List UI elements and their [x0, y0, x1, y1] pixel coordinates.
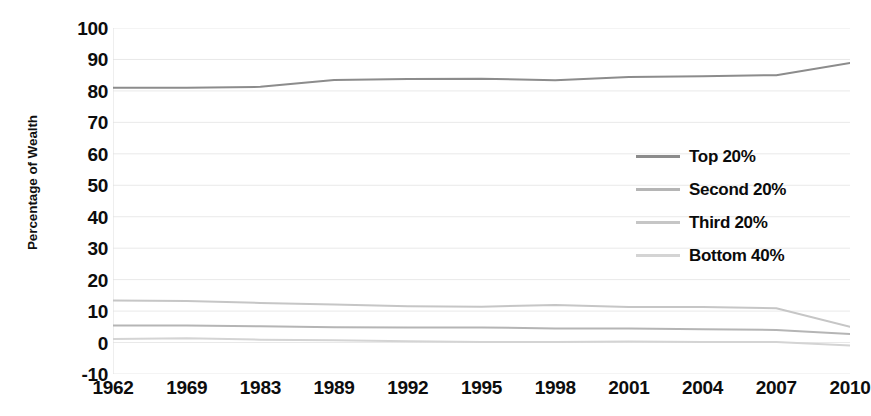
x-tick-2004: 2004 — [682, 378, 723, 397]
legend-label-bottom-40: Bottom 40% — [689, 246, 784, 266]
legend-label-third-20: Third 20% — [689, 213, 768, 233]
y-tick-20: 20 — [40, 271, 108, 290]
legend-item-bottom-40: Bottom 40% — [636, 239, 851, 272]
series-line-second-20 — [113, 326, 850, 334]
y-tick-10: 10 — [40, 302, 108, 321]
legend-swatch-third-20 — [636, 221, 680, 224]
y-tick-60: 60 — [40, 145, 108, 164]
y-axis-tick-labels: 1009080706050403020100-10 — [40, 0, 108, 416]
legend-swatch-top-20 — [636, 155, 680, 158]
x-tick-1962: 1962 — [92, 378, 133, 397]
x-tick-2010: 2010 — [829, 378, 870, 397]
legend-item-top-20: Top 20% — [636, 140, 851, 173]
x-tick-1998: 1998 — [535, 378, 576, 397]
x-tick-1989: 1989 — [314, 378, 355, 397]
x-tick-2001: 2001 — [608, 378, 649, 397]
x-axis-tick-labels: 1962196919831989199219951998200120042007… — [0, 378, 857, 416]
x-tick-1969: 1969 — [166, 378, 207, 397]
y-tick-50: 50 — [40, 176, 108, 195]
legend-swatch-second-20 — [636, 188, 680, 191]
legend-item-third-20: Third 20% — [636, 206, 851, 239]
y-tick-30: 30 — [40, 239, 108, 258]
x-tick-2007: 2007 — [756, 378, 797, 397]
y-tick-0: 0 — [40, 334, 108, 353]
legend-swatch-bottom-40 — [636, 254, 680, 257]
series-line-bottom-40 — [113, 338, 850, 345]
chart-legend: Top 20% Second 20% Third 20% Bottom 40% — [636, 140, 851, 272]
series-line-top-20 — [113, 63, 850, 88]
x-tick-1995: 1995 — [461, 378, 502, 397]
legend-label-second-20: Second 20% — [689, 180, 786, 200]
x-tick-1983: 1983 — [240, 378, 281, 397]
y-axis-title: Percentage of Wealth — [25, 88, 40, 278]
series-line-third-20 — [113, 300, 850, 326]
y-tick-40: 40 — [40, 208, 108, 227]
y-tick-90: 90 — [40, 50, 108, 69]
y-tick-80: 80 — [40, 82, 108, 101]
legend-label-top-20: Top 20% — [689, 147, 756, 167]
y-tick-100: 100 — [40, 19, 108, 38]
x-tick-1992: 1992 — [387, 378, 428, 397]
legend-item-second-20: Second 20% — [636, 173, 851, 206]
y-tick-70: 70 — [40, 113, 108, 132]
